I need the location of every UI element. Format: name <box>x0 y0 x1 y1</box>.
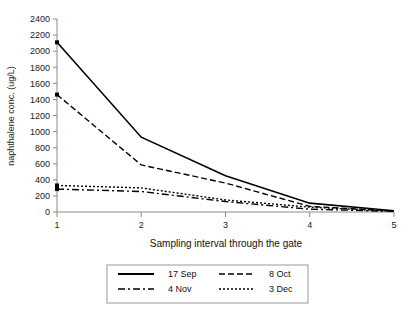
legend-label: 4 Nov <box>168 284 192 294</box>
y-tick-label: 2400 <box>30 14 50 24</box>
x-tick-label: 1 <box>54 220 59 230</box>
x-tick-label: 2 <box>139 220 144 230</box>
x-tick-label: 3 <box>223 220 228 230</box>
y-tick-label: 1200 <box>30 111 50 121</box>
y-tick-label: 1000 <box>30 127 50 137</box>
y-axis-title: naphthalene conc. (ug/L) <box>6 66 16 166</box>
x-axis-title: Sampling interval through the gate <box>150 238 303 249</box>
y-tick-label: 200 <box>35 191 50 201</box>
y-tick-label: 1800 <box>30 63 50 73</box>
legend-label: 8 Oct <box>269 269 291 279</box>
y-tick-label: 1600 <box>30 79 50 89</box>
y-tick-label: 600 <box>35 159 50 169</box>
y-tick-label: 800 <box>35 143 50 153</box>
y-tick-label: 0 <box>45 207 50 217</box>
y-tick-label: 2000 <box>30 46 50 56</box>
data-point-marker <box>55 93 59 97</box>
legend-label: 17 Sep <box>168 269 197 279</box>
data-point-marker <box>55 183 59 187</box>
x-tick-label: 5 <box>391 220 396 230</box>
y-tick-label: 400 <box>35 175 50 185</box>
data-point-marker <box>55 187 59 191</box>
x-tick-label: 4 <box>307 220 312 230</box>
data-point-marker <box>55 40 59 44</box>
chart-container: 0200400600800100012001400160018002000220… <box>0 0 411 319</box>
y-tick-label: 2200 <box>30 30 50 40</box>
y-tick-label: 1400 <box>30 95 50 105</box>
legend-label: 3 Dec <box>269 284 293 294</box>
naphthalene-concentration-line-chart: 0200400600800100012001400160018002000220… <box>0 0 411 319</box>
